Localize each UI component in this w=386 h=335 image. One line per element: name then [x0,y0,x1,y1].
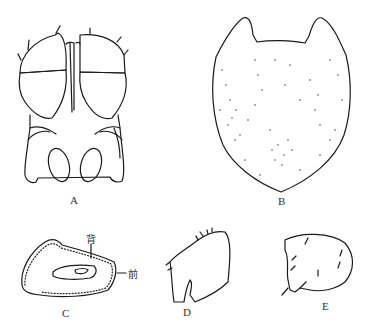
panel-c-drawing [22,240,126,297]
panel-label-d: D [183,306,191,318]
panel-label-a: A [70,194,78,206]
panel-d-drawing [166,228,230,302]
annotation-anterior: 前 [128,266,138,281]
panel-label-e: E [322,300,329,312]
figure-drawing [0,0,386,335]
annotation-dorsal: 背 [86,231,96,246]
panel-label-c: C [62,307,69,319]
panel-e-drawing [282,234,353,295]
panel-a-drawing [18,26,128,184]
panel-b-drawing [213,18,351,192]
panel-label-b: B [278,195,285,207]
